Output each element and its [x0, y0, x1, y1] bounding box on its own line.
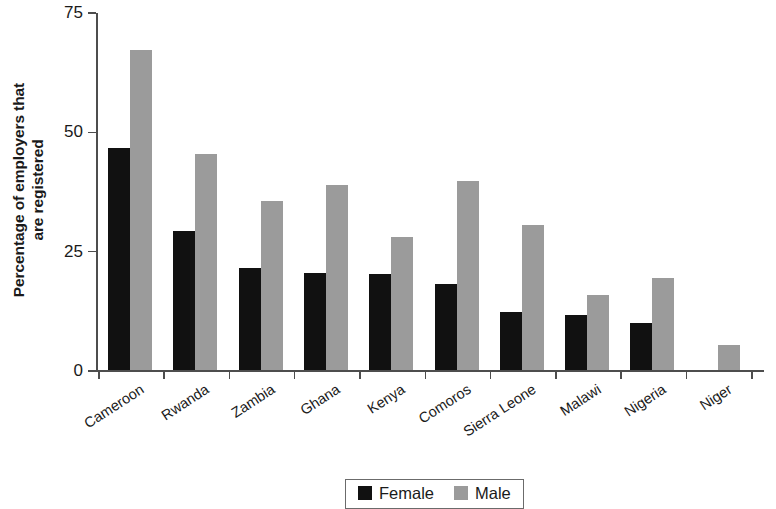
- legend-label-female: Female: [379, 485, 434, 502]
- bar-niger-male: [718, 345, 740, 370]
- bar-kenya-female: [369, 274, 391, 370]
- x-axis-tick: [98, 371, 100, 379]
- y-axis-tick-label: 50: [64, 122, 83, 142]
- x-axis-label-kenya: Kenya: [365, 381, 408, 417]
- y-axis-tick: 25: [88, 251, 96, 253]
- x-axis-tick: [229, 371, 231, 379]
- y-axis-tick: 75: [88, 12, 96, 14]
- legend-swatch-male-icon: [454, 486, 468, 500]
- bar-zambia-female: [239, 268, 261, 370]
- x-axis-label-sierra-leone: Sierra Leone: [460, 381, 538, 440]
- x-axis-tick: [425, 371, 427, 379]
- bar-chart: Percentage of employers that are registe…: [0, 0, 776, 509]
- plot-area: 0255075: [96, 13, 764, 371]
- y-axis-tick: 0: [88, 370, 96, 372]
- y-axis-tick: 50: [88, 132, 96, 134]
- x-axis-tick: [163, 371, 165, 379]
- bar-ghana-male: [326, 185, 348, 370]
- y-axis-line: [96, 13, 98, 371]
- x-axis-tick: [751, 371, 753, 379]
- x-axis-label-zambia: Zambia: [228, 381, 277, 421]
- bar-kenya-male: [391, 237, 413, 370]
- legend-swatch-female-icon: [358, 486, 372, 500]
- bar-comoros-male: [457, 181, 479, 370]
- y-axis-tick-label: 75: [64, 3, 83, 23]
- bar-comoros-female: [435, 284, 457, 370]
- bar-cameroon-female: [108, 148, 130, 370]
- x-axis-line: [96, 370, 764, 372]
- x-axis-label-nigeria: Nigeria: [622, 381, 669, 419]
- x-axis-label-cameroon: Cameroon: [81, 381, 146, 431]
- x-axis-tick: [686, 371, 688, 379]
- legend-item-female: Female: [358, 485, 434, 502]
- x-axis-label-rwanda: Rwanda: [159, 381, 212, 423]
- bar-nigeria-female: [630, 323, 652, 370]
- bar-ghana-female: [304, 273, 326, 370]
- bar-sierra-leone-female: [500, 312, 522, 370]
- bar-malawi-female: [565, 315, 587, 370]
- x-axis-label-ghana: Ghana: [297, 381, 342, 418]
- y-axis-title: Percentage of employers that are registe…: [9, 83, 47, 297]
- y-axis-tick-label: 25: [64, 241, 83, 261]
- chart-legend: Female Male: [345, 479, 524, 509]
- x-axis-tick: [490, 371, 492, 379]
- y-axis-title-line-2: are registered: [28, 83, 47, 297]
- x-axis-label-malawi: Malawi: [557, 381, 604, 419]
- y-axis-tick-label: 0: [74, 361, 83, 381]
- y-axis-title-line-1: Percentage of employers that: [9, 83, 28, 297]
- bar-rwanda-female: [173, 231, 195, 370]
- bar-sierra-leone-male: [522, 225, 544, 370]
- bar-zambia-male: [261, 201, 283, 370]
- x-axis-label-comoros: Comoros: [415, 381, 473, 426]
- bar-cameroon-male: [130, 50, 152, 370]
- bar-nigeria-male: [652, 278, 674, 370]
- x-axis-tick: [555, 371, 557, 379]
- x-axis-tick: [359, 371, 361, 379]
- y-axis-title-container: Percentage of employers that are registe…: [0, 0, 56, 380]
- x-axis-tick: [294, 371, 296, 379]
- x-axis-label-niger: Niger: [697, 381, 735, 413]
- bar-rwanda-male: [195, 154, 217, 370]
- legend-item-male: Male: [454, 485, 511, 502]
- x-axis-tick: [620, 371, 622, 379]
- bar-malawi-male: [587, 295, 609, 370]
- legend-label-male: Male: [475, 485, 511, 502]
